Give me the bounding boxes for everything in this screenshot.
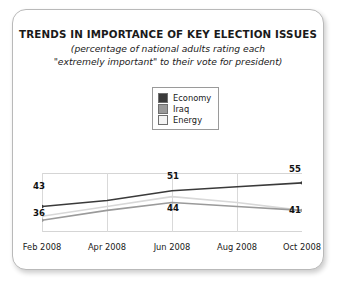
legend-item-energy: Energy <box>158 114 211 125</box>
x-axis-label: Apr 2008 <box>88 242 126 252</box>
x-axis-label: Feb 2008 <box>23 242 61 252</box>
chart-subtitle-line-1: (percentage of national adults rating ea… <box>13 43 323 56</box>
x-axis-label: Oct 2008 <box>283 242 321 252</box>
data-point-label: 51 <box>167 171 179 181</box>
legend-swatch-energy <box>158 115 168 125</box>
chart-subtitle: (percentage of national adults rating ea… <box>13 43 323 68</box>
data-point-label: 41 <box>289 205 301 215</box>
legend-label-economy: Economy <box>173 93 211 103</box>
legend-label-iraq: Iraq <box>173 104 189 114</box>
legend-swatch-iraq <box>158 104 168 114</box>
series-point-iraq <box>42 219 44 222</box>
data-point-label: 36 <box>33 208 45 218</box>
legend-item-iraq: Iraq <box>158 103 211 114</box>
legend-label-energy: Energy <box>173 115 202 125</box>
data-point-label: 55 <box>289 164 301 174</box>
x-axis-label: Aug 2008 <box>217 242 257 252</box>
x-axis-label: Jun 2008 <box>154 242 191 252</box>
chart-subtitle-line-2: "extremely important" to their vote for … <box>13 56 323 69</box>
chart-title: TRENDS IN IMPORTANCE OF KEY ELECTION ISS… <box>13 28 323 40</box>
data-point-label: 44 <box>167 203 179 213</box>
legend-item-economy: Economy <box>158 92 211 103</box>
chart-legend: Economy Iraq Energy <box>152 87 219 130</box>
data-point-label: 43 <box>33 181 45 191</box>
legend-swatch-economy <box>158 93 168 103</box>
series-point-economy <box>300 181 302 184</box>
chart-card: TRENDS IN IMPORTANCE OF KEY ELECTION ISS… <box>12 9 324 270</box>
